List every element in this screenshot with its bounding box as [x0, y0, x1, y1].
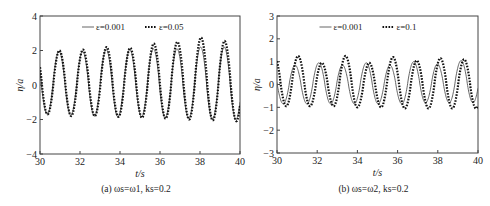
series-line-dotted: [40, 38, 240, 122]
x-axis-label: t/s: [135, 168, 145, 179]
legend-item: ε=0.001: [82, 22, 125, 32]
x-tick-label: 40: [235, 156, 245, 167]
x-tick-label: 32: [75, 156, 85, 167]
legend: ε=0.001ε=0.05: [82, 22, 184, 32]
series-group: [277, 56, 478, 109]
x-tick-label: 38: [433, 155, 443, 166]
legend-label: ε=0.001: [334, 22, 363, 32]
x-tick-label: 34: [115, 156, 125, 167]
x-tick-label: 36: [155, 156, 165, 167]
figure-caption: (a) ωs=ω1, ks=0.2: [101, 184, 171, 195]
y-tick-label: −2: [26, 114, 37, 125]
y-tick-label: 4: [32, 11, 37, 22]
plot-frame: [277, 16, 478, 153]
y-tick-label: 0: [32, 80, 37, 91]
series-group: [40, 38, 240, 122]
y-tick-label: −4: [26, 149, 37, 160]
chart-panel-b: 303234363840−3−2−10123t/sη/aε=0.001ε=0.1…: [251, 11, 483, 196]
y-tick-label: −2: [263, 125, 274, 136]
legend-label: ε=0.05: [159, 22, 184, 32]
legend: ε=0.001ε=0.1: [320, 22, 417, 32]
y-tick-label: 2: [32, 45, 37, 56]
legend-item: ε=0.05: [145, 22, 184, 32]
x-tick-label: 34: [352, 155, 362, 166]
y-tick-label: 0: [269, 79, 274, 90]
chart-panel-a: 303234363840−4−2024t/sη/aε=0.001ε=0.05(a…: [14, 11, 245, 196]
x-axis: 303234363840: [35, 151, 245, 167]
legend-item: ε=0.1: [383, 22, 417, 32]
y-axis-label: η/a: [14, 79, 25, 92]
x-tick-label: 38: [195, 156, 205, 167]
y-axis: −4−2024: [26, 11, 43, 160]
y-axis-label: η/a: [251, 78, 262, 91]
x-tick-label: 32: [312, 155, 322, 166]
y-tick-label: 2: [269, 33, 274, 44]
y-tick-label: −1: [263, 102, 274, 113]
x-tick-label: 36: [393, 155, 403, 166]
legend-label: ε=0.1: [397, 22, 417, 32]
y-tick-label: −3: [263, 148, 274, 159]
legend-item: ε=0.001: [320, 22, 363, 32]
figure: 303234363840−4−2024t/sη/aε=0.001ε=0.05(a…: [0, 0, 490, 206]
y-tick-label: 3: [269, 11, 274, 22]
x-tick-label: 40: [473, 155, 483, 166]
x-axis-label: t/s: [373, 167, 383, 178]
x-axis: 303234363840: [272, 150, 483, 166]
legend-label: ε=0.001: [96, 22, 125, 32]
plot-frame: [40, 16, 240, 154]
figure-caption: (b) ωs=ω2, ks=0.2: [338, 184, 408, 195]
y-tick-label: 1: [269, 56, 274, 67]
